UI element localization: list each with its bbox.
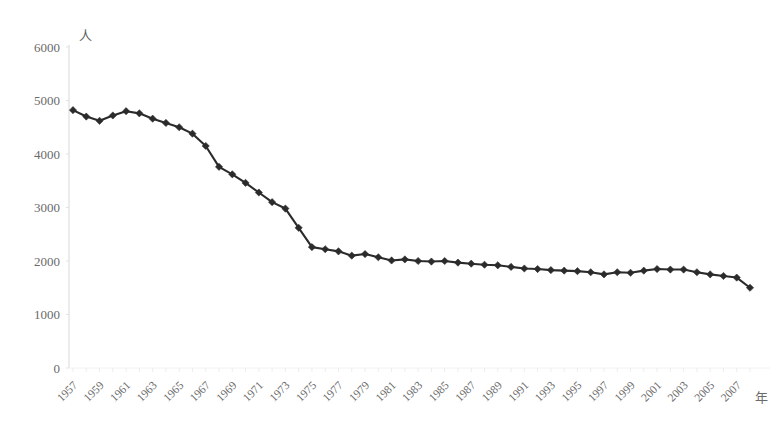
data-point-marker — [322, 246, 329, 253]
figure-caption — [0, 430, 783, 440]
x-tick-label: 1985 — [426, 379, 451, 404]
data-point-marker — [561, 267, 568, 274]
y-axis-title: 人 — [79, 28, 92, 43]
data-point-marker — [149, 115, 156, 122]
data-point-marker — [96, 117, 103, 124]
data-point-marker — [375, 254, 382, 261]
x-tick-label: 1999 — [612, 379, 637, 404]
data-point-marker — [680, 266, 687, 273]
data-point-marker — [574, 268, 581, 275]
x-tick-label: 1967 — [187, 379, 212, 404]
data-point-marker — [693, 269, 700, 276]
data-point-marker — [454, 259, 461, 266]
data-point-marker — [627, 269, 634, 276]
y-tick-label: 2000 — [34, 254, 60, 269]
data-point-marker — [162, 119, 169, 126]
data-point-marker — [176, 124, 183, 131]
data-point-marker — [507, 263, 514, 270]
x-tick-label: 1971 — [241, 379, 266, 404]
data-point-marker — [122, 108, 129, 115]
x-tick-label: 1977 — [320, 379, 345, 404]
line-chart: 0100020003000400050006000 19571959196119… — [0, 0, 783, 440]
data-point-marker — [534, 265, 541, 272]
x-tick-label: 1995 — [559, 379, 584, 404]
data-point-marker — [494, 262, 501, 269]
data-series-line — [73, 110, 750, 288]
x-tick-label: 1997 — [586, 379, 611, 404]
data-point-marker — [600, 271, 607, 278]
data-point-marker — [401, 256, 408, 263]
x-tick-label: 1973 — [267, 379, 292, 404]
y-tick-label: 4000 — [34, 147, 60, 162]
data-point-marker — [348, 252, 355, 259]
data-point-marker — [720, 272, 727, 279]
x-tick-label: 1957 — [55, 379, 80, 404]
y-tick-label: 5000 — [34, 93, 60, 108]
x-tick-label: 2001 — [639, 379, 664, 404]
x-tick-label: 1983 — [400, 379, 425, 404]
x-tick-label: 1961 — [108, 379, 133, 404]
x-tick-label: 1965 — [161, 379, 186, 404]
x-tick-label: 1981 — [373, 379, 398, 404]
data-point-marker — [388, 257, 395, 264]
x-tick-label: 2005 — [692, 379, 717, 404]
x-tick-label: 1963 — [134, 379, 159, 404]
data-point-marker — [361, 250, 368, 257]
x-tick-label: 1975 — [294, 379, 319, 404]
data-point-marker — [614, 269, 621, 276]
x-axis-title: 年 — [755, 390, 768, 405]
y-tick-label: 1000 — [34, 307, 60, 322]
series-line-people — [73, 110, 750, 288]
x-tick-label: 1969 — [214, 379, 239, 404]
y-tick-label: 6000 — [34, 40, 60, 55]
data-point-marker — [667, 266, 674, 273]
x-tick-label: 1993 — [533, 379, 558, 404]
x-tick-label: 1979 — [347, 379, 372, 404]
data-point-marker — [640, 267, 647, 274]
x-tick-label: 1987 — [453, 379, 478, 404]
x-axis-tick-labels: 1957195919611963196519671969197119731975… — [55, 379, 744, 404]
chart-canvas: 0100020003000400050006000 19571959196119… — [0, 0, 783, 440]
data-point-marker — [335, 248, 342, 255]
data-point-marker — [83, 113, 90, 120]
data-point-marker — [441, 257, 448, 264]
y-axis-tick-labels: 0100020003000400050006000 — [34, 40, 60, 376]
data-point-marker — [136, 110, 143, 117]
data-point-marker — [468, 260, 475, 267]
x-tick-label: 2003 — [665, 379, 690, 404]
data-point-markers — [69, 107, 753, 292]
data-point-marker — [587, 269, 594, 276]
data-point-marker — [653, 265, 660, 272]
data-point-marker — [707, 271, 714, 278]
data-point-marker — [481, 261, 488, 268]
data-point-marker — [69, 107, 76, 114]
x-tick-label: 2007 — [718, 379, 743, 404]
data-point-marker — [415, 257, 422, 264]
data-point-marker — [521, 265, 528, 272]
data-point-marker — [109, 112, 116, 119]
x-tick-label: 1959 — [81, 379, 106, 404]
x-tick-label: 1989 — [479, 379, 504, 404]
x-tick-label: 1991 — [506, 379, 531, 404]
data-point-marker — [547, 266, 554, 273]
x-axis-ticks — [73, 368, 750, 372]
y-tick-label: 0 — [54, 361, 61, 376]
y-tick-label: 3000 — [34, 200, 60, 215]
data-point-marker — [428, 258, 435, 265]
